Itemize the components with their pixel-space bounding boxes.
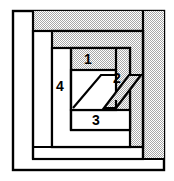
nested-rectangles-figure: 1 2 3 4 [0,0,174,181]
region-label-3: 3 [92,112,100,128]
region-label-2: 2 [113,70,121,86]
region-3-strip [71,110,130,130]
region-label-1: 1 [84,51,92,67]
figure-container: 1 2 3 4 [0,0,174,181]
region-label-4: 4 [56,78,64,94]
